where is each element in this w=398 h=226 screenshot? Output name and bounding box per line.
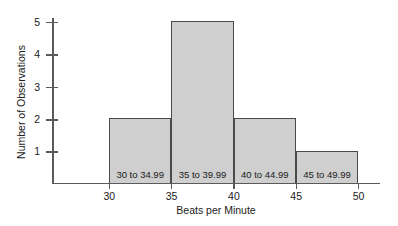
- y-tick-2: [46, 119, 58, 121]
- x-tick-label-30-wrap: 30: [89, 190, 129, 203]
- x-tick-30: [109, 183, 111, 189]
- x-tick-label-35: 35: [152, 190, 192, 203]
- x-tick-label-40: 40: [214, 190, 254, 203]
- y-tick-label-3-wrap: 3: [22, 82, 40, 92]
- x-tick-label-30: 30: [89, 190, 129, 203]
- x-tick-label-45-wrap: 45: [276, 190, 316, 203]
- bar-label-40-to-44-99: 40 to 44.99: [235, 169, 295, 180]
- y-tick-5: [46, 22, 58, 24]
- y-tick-label-4-wrap: 4: [22, 49, 40, 59]
- bar-label-30-to-34-99: 30 to 34.99: [110, 169, 170, 180]
- x-tick-label-50-wrap: 50: [339, 190, 379, 203]
- bar-label-35-to-39-99: 35 to 39.99: [172, 169, 232, 180]
- bar-40-to-44-99: 40 to 44.99: [234, 118, 296, 183]
- y-tick-label-2-wrap: 2: [22, 114, 40, 124]
- y-tick-label-2: 2: [22, 114, 40, 124]
- bar-45-to-49-99: 45 to 49.99: [296, 151, 358, 183]
- x-tick-label-45: 45: [276, 190, 316, 203]
- y-tick-1: [46, 151, 58, 153]
- x-axis-title: Beats per Minute: [52, 204, 380, 216]
- x-tick-label-50: 50: [339, 190, 379, 203]
- x-tick-label-35-wrap: 35: [152, 190, 192, 203]
- y-tick-label-1-wrap: 1: [22, 146, 40, 156]
- bar-label-45-to-49-99: 45 to 49.99: [297, 169, 357, 180]
- x-tick-35: [171, 183, 173, 189]
- y-tick-4: [46, 54, 58, 56]
- y-tick-label-1: 1: [22, 146, 40, 156]
- y-tick-label-4: 4: [22, 49, 40, 59]
- x-tick-40: [233, 183, 235, 189]
- y-tick-label-5-wrap: 5: [22, 17, 40, 27]
- histogram-figure: Number of Observations 1 2 3 4 5 30 to 3…: [0, 0, 398, 226]
- y-axis-line: [52, 18, 54, 184]
- x-tick-label-40-wrap: 40: [214, 190, 254, 203]
- bar-35-to-39-99: 35 to 39.99: [171, 21, 233, 183]
- y-tick-label-5: 5: [22, 17, 40, 27]
- bar-30-to-34-99: 30 to 34.99: [109, 118, 171, 183]
- x-tick-50: [358, 183, 360, 189]
- y-tick-label-3: 3: [22, 82, 40, 92]
- y-tick-3: [46, 87, 58, 89]
- x-tick-45: [296, 183, 298, 189]
